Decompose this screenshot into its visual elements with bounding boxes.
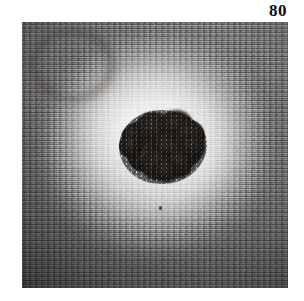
clinical-photograph (22, 22, 288, 288)
scan-artifact-speck (236, 150, 238, 152)
lesion-border-halo (22, 22, 122, 108)
lesion-globular-texture (119, 110, 207, 184)
figure-number-label: 80 (269, 1, 287, 20)
scan-artifact-speck (168, 52, 171, 54)
scan-artifact-speck (74, 214, 76, 216)
figure-container: 80 (0, 0, 304, 301)
pigmented-lesion (119, 110, 207, 184)
scan-artifact-speck (96, 40, 98, 42)
scan-artifact-speck (212, 232, 214, 235)
satellite-pigment-speck (159, 206, 162, 210)
